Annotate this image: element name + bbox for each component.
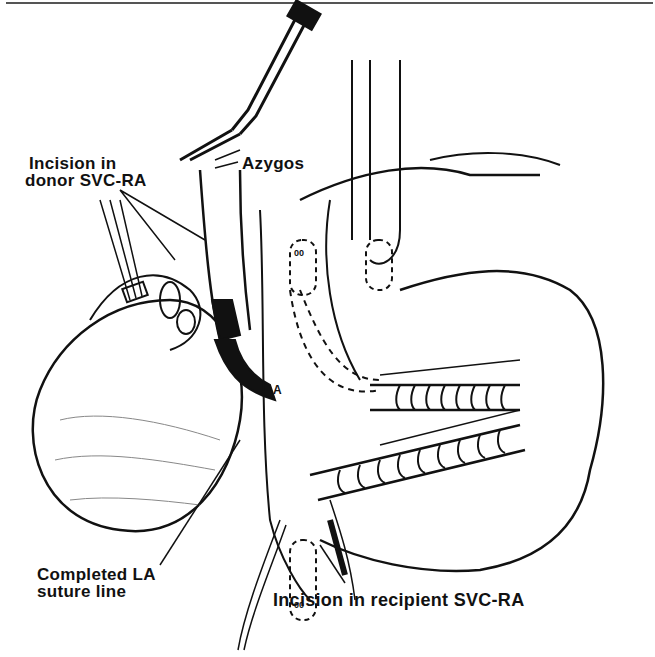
label-donor-incision: Incision in donor SVC-RA: [29, 155, 147, 189]
heart-transplant-illustration: [0, 0, 655, 657]
forceps-icon: [180, 0, 321, 160]
leader-donor-incision: [120, 190, 205, 260]
marker-a-lower: A: [273, 383, 282, 397]
clamp-label-upper: 00: [294, 248, 304, 258]
leader-completed-la: [160, 440, 240, 565]
recipient-heart-outline: [300, 168, 603, 571]
label-recipient-incision: Incision in recipient SVC-RA: [273, 592, 524, 609]
la-flap: [215, 340, 275, 400]
clamp-label-lower: 00: [294, 600, 304, 610]
label-azygos: Azygos: [242, 155, 304, 172]
leader-azygos: [215, 150, 240, 168]
venous-cannula-upper: [370, 385, 520, 410]
marker-a-upper: A: [222, 318, 231, 332]
label-completed-la: Completed LA suture line: [37, 566, 156, 600]
donor-heart-outline: [33, 300, 242, 531]
